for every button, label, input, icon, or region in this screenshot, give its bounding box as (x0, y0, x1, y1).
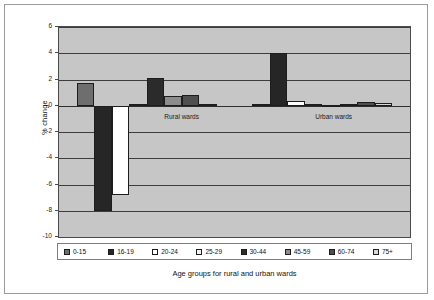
legend-label-20-24: 20-24 (161, 248, 178, 255)
bar-rural-wards-25-29 (129, 104, 147, 106)
bar-urban-wards-75+ (375, 103, 393, 106)
bar-rural-wards-16-19 (94, 106, 112, 212)
y-tick-label-2: 2 (26, 75, 52, 82)
legend-swatch-30-44-icon (241, 249, 247, 255)
chart-page: % change Rural wardsUrban wards 6420-2-4… (0, 0, 434, 300)
legend-swatch-20-24-icon (152, 249, 158, 255)
legend-item-20-24[interactable]: 20-24 (146, 248, 190, 255)
legend-item-25-29[interactable]: 25-29 (190, 248, 234, 255)
y-tick-mark-6 (55, 26, 58, 27)
y-tick-label-4: 4 (26, 48, 52, 55)
legend-swatch-0-15-icon (64, 249, 70, 255)
plot-area: Rural wardsUrban wards (58, 26, 411, 238)
gridline-6 (59, 27, 410, 28)
legend-label-25-29: 25-29 (205, 248, 222, 255)
legend-label-60-74: 60-74 (338, 248, 355, 255)
y-tick-mark--6 (55, 184, 58, 185)
bar-rural-wards-0-15 (77, 83, 95, 106)
gridline-4 (59, 53, 410, 54)
legend-label-16-19: 16-19 (117, 248, 134, 255)
legend-label-45-59: 45-59 (294, 248, 311, 255)
y-tick-label--8: -8 (26, 206, 52, 213)
y-tick-label--6: -6 (26, 180, 52, 187)
bar-rural-wards-20-24 (112, 106, 130, 195)
y-tick-mark--2 (55, 131, 58, 132)
bar-urban-wards-0-15 (252, 104, 270, 106)
y-tick-label--4: -4 (26, 153, 52, 160)
gridline-2 (59, 80, 410, 81)
y-tick-label--2: -2 (26, 127, 52, 134)
legend-swatch-60-74-icon (329, 249, 335, 255)
chart-legend: 0-1516-1920-2425-2930-4445-5960-7475+ (57, 243, 412, 260)
bar-urban-wards-25-29 (305, 104, 323, 106)
y-tick-mark--10 (55, 236, 58, 237)
bar-rural-wards-60-74 (182, 95, 200, 106)
legend-swatch-45-59-icon (285, 249, 291, 255)
bar-rural-wards-30-44 (147, 78, 165, 106)
group-annotation-rural-wards: Rural wards (164, 113, 199, 120)
legend-item-60-74[interactable]: 60-74 (323, 248, 367, 255)
bar-rural-wards-45-59 (164, 96, 182, 106)
bar-rural-wards-75+ (199, 104, 217, 106)
legend-item-75+[interactable]: 75+ (367, 248, 411, 255)
y-tick-mark-2 (55, 79, 58, 80)
legend-item-16-19[interactable]: 16-19 (102, 248, 146, 255)
legend-label-30-44: 30-44 (250, 248, 267, 255)
legend-swatch-16-19-icon (108, 249, 114, 255)
legend-item-0-15[interactable]: 0-15 (58, 248, 102, 255)
legend-item-30-44[interactable]: 30-44 (235, 248, 279, 255)
y-axis-title: % change (40, 73, 49, 163)
y-tick-mark-0 (55, 105, 58, 106)
bar-urban-wards-16-19 (270, 53, 288, 106)
x-axis-title: Age groups for rural and urban wards (58, 269, 411, 278)
y-tick-mark--4 (55, 157, 58, 158)
y-tick-label--10: -10 (26, 232, 52, 239)
plot-inner: Rural wardsUrban wards (59, 27, 410, 237)
bar-urban-wards-45-59 (340, 104, 358, 106)
y-tick-mark--8 (55, 210, 58, 211)
y-tick-label-0: 0 (26, 101, 52, 108)
legend-label-0-15: 0-15 (73, 248, 86, 255)
bar-urban-wards-30-44 (322, 105, 340, 107)
group-annotation-urban-wards: Urban wards (315, 113, 352, 120)
gridline--8 (59, 211, 410, 212)
legend-label-75+: 75+ (382, 248, 393, 255)
bar-urban-wards-60-74 (357, 102, 375, 106)
legend-swatch-25-29-icon (196, 249, 202, 255)
y-tick-label-6: 6 (26, 22, 52, 29)
y-tick-mark-4 (55, 52, 58, 53)
legend-item-45-59[interactable]: 45-59 (279, 248, 323, 255)
bar-urban-wards-20-24 (287, 101, 305, 106)
legend-swatch-75+-icon (373, 249, 379, 255)
figure-frame: % change Rural wardsUrban wards 6420-2-4… (4, 4, 428, 294)
